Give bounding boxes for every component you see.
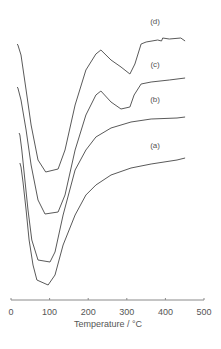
x-tick-label-500: 500 xyxy=(196,307,211,317)
series-labels: (a) (b) (c) (d) xyxy=(150,17,160,150)
x-tick-label-200: 200 xyxy=(81,307,96,317)
dsc-chart: (a) (b) (c) (d) 0 100 200 300 400 500 Te… xyxy=(0,0,221,349)
curve-a xyxy=(20,158,185,285)
curve-b xyxy=(19,117,185,262)
series-label-b: (b) xyxy=(150,95,160,104)
series-label-d: (d) xyxy=(150,17,160,26)
series-label-a: (a) xyxy=(150,141,160,150)
x-axis: 0 100 200 300 400 500 Temperature / °C xyxy=(8,298,211,329)
x-tick-label-300: 300 xyxy=(119,307,134,317)
x-tick-label-0: 0 xyxy=(8,307,13,317)
series-label-c: (c) xyxy=(150,60,160,69)
plot-curves xyxy=(17,38,185,285)
curve-d xyxy=(17,38,185,172)
x-tick-label-100: 100 xyxy=(42,307,57,317)
x-axis-title: Temperature / °C xyxy=(74,319,143,329)
x-tick-label-400: 400 xyxy=(158,307,173,317)
